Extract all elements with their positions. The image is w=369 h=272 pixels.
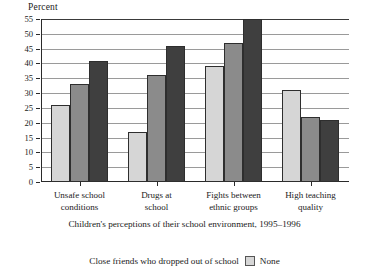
x-axis-category-label: Fights betweenethnic groups	[195, 190, 272, 213]
x-axis-category-label: High teachingquality	[272, 190, 349, 213]
bar-groups	[41, 19, 349, 182]
y-axis-tick-label: 5	[29, 162, 33, 172]
x-axis-category-line: Fights between	[195, 190, 272, 202]
x-axis-category-line: Unsafe school	[41, 190, 118, 202]
bar[interactable]	[224, 43, 243, 182]
bar-group	[118, 19, 195, 182]
bar[interactable]	[51, 105, 70, 182]
y-axis-tick-label: 15	[24, 133, 33, 143]
y-axis-tick-label: 10	[24, 147, 33, 157]
y-axis-tick-label: 25	[24, 103, 33, 113]
y-axis-tick	[36, 19, 40, 20]
y-axis-labels: 0510152025303540455055	[0, 16, 41, 182]
bar[interactable]	[89, 61, 108, 183]
bar[interactable]	[243, 19, 262, 182]
bar[interactable]	[147, 75, 166, 182]
y-axis-tick	[36, 108, 40, 109]
y-axis-tick-label: 40	[24, 58, 33, 68]
plot-wrapper: 0510152025303540455055	[0, 16, 369, 188]
bar-set	[51, 19, 108, 182]
bar-set	[205, 19, 262, 182]
bar[interactable]	[205, 66, 224, 182]
bar[interactable]	[282, 90, 301, 182]
bar-group	[195, 19, 272, 182]
legend-title: Close friends who dropped out of school	[89, 256, 239, 266]
bar[interactable]	[301, 117, 320, 182]
y-axis-tick	[36, 152, 40, 153]
y-axis-tick-label: 50	[24, 29, 33, 39]
legend-swatch	[245, 256, 255, 266]
x-axis-tick	[157, 182, 158, 186]
y-axis-tick-label: 30	[24, 88, 33, 98]
y-axis-tick-label: 45	[24, 44, 33, 54]
x-axis-labels: Unsafe schoolconditionsDrugs atschoolFig…	[41, 190, 349, 213]
y-axis-title: Percent	[28, 2, 58, 12]
y-axis-tick-label: 0	[29, 177, 33, 187]
x-axis-tick	[80, 182, 81, 186]
y-axis-tick-label: 55	[24, 14, 33, 24]
x-axis-category-line: Drugs at	[118, 190, 195, 202]
bar-set	[282, 19, 339, 182]
y-axis-tick	[36, 78, 40, 79]
x-axis-category-line: quality	[272, 202, 349, 214]
y-axis-tick	[36, 63, 40, 64]
y-axis-tick	[36, 123, 40, 124]
bar[interactable]	[166, 46, 185, 182]
bar-group	[272, 19, 349, 182]
x-axis-category-label: Unsafe schoolconditions	[41, 190, 118, 213]
y-axis-tick-label: 20	[24, 118, 33, 128]
y-axis-tick	[36, 93, 40, 94]
chart-legend: Close friends who dropped out of school …	[0, 249, 369, 272]
x-axis-category-label: Drugs atschool	[118, 190, 195, 213]
bar[interactable]	[320, 120, 339, 182]
x-axis-category-line: ethnic groups	[195, 202, 272, 214]
bar-set	[128, 19, 185, 182]
x-axis-category-line: conditions	[41, 202, 118, 214]
x-axis-tick	[234, 182, 235, 186]
y-axis-tick	[36, 49, 40, 50]
x-axis-tick	[311, 182, 312, 186]
y-axis-tick-label: 35	[24, 73, 33, 83]
chart-figure: Percent 0510152025303540455055 Unsafe sc…	[0, 0, 369, 272]
y-axis-tick	[36, 182, 40, 183]
bar[interactable]	[70, 84, 89, 182]
legend-label: None	[260, 256, 280, 266]
bar[interactable]	[128, 132, 147, 182]
y-axis-tick	[36, 167, 40, 168]
legend-item[interactable]: None	[245, 256, 280, 266]
figure-caption: Children's perceptions of their school e…	[0, 219, 369, 229]
bar-group	[41, 19, 118, 182]
x-axis-category-line: school	[118, 202, 195, 214]
y-axis-tick	[36, 138, 40, 139]
x-axis-category-line: High teaching	[272, 190, 349, 202]
y-axis-tick	[36, 34, 40, 35]
